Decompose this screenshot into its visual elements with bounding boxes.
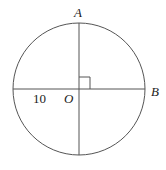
circle-diagram (0, 0, 166, 170)
right-angle-marker (79, 77, 90, 89)
label-b: B (151, 85, 159, 98)
label-o: O (64, 92, 73, 105)
label-a: A (74, 6, 82, 19)
label-radius-length: 10 (33, 92, 46, 105)
